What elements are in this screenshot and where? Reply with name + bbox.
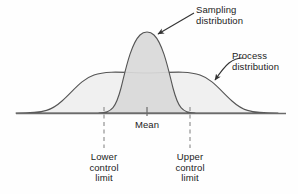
sampling-distribution-label-line1: Sampling bbox=[196, 5, 243, 16]
process-distribution-label-line1: Process bbox=[232, 51, 279, 62]
sampling-distribution-label-line2: distribution bbox=[196, 16, 243, 27]
upper-control-limit-label-line1: Upper bbox=[175, 152, 204, 163]
mean-label: Mean bbox=[135, 120, 159, 131]
lower-control-limit-label-line1: Lower bbox=[89, 152, 118, 163]
process-distribution-label-line2: distribution bbox=[232, 62, 279, 73]
upper-control-limit-label-line3: limit bbox=[175, 173, 204, 184]
sampling-distribution-label: Sampling distribution bbox=[196, 5, 243, 26]
upper-control-limit-label: Upper control limit bbox=[175, 152, 204, 184]
sampling-distribution-arrow bbox=[158, 13, 194, 34]
process-distribution-label: Process distribution bbox=[232, 51, 279, 72]
diagram-canvas bbox=[0, 0, 298, 194]
lower-control-limit-label: Lower control limit bbox=[89, 152, 118, 184]
distribution-diagram: Sampling distribution Process distributi… bbox=[0, 0, 298, 194]
lower-control-limit-label-line3: limit bbox=[89, 173, 118, 184]
